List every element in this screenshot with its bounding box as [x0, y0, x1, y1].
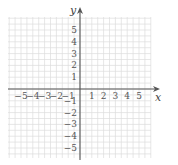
- x-tick-labels: −5−4−3−2−112345: [14, 91, 142, 101]
- x-tick-label: 1: [89, 91, 95, 101]
- y-tick-label: −4: [64, 131, 78, 141]
- x-tick-label: 3: [113, 91, 119, 101]
- y-tick-label: −2: [64, 108, 77, 118]
- y-tick-label: −5: [64, 143, 78, 153]
- y-axis-label: y: [69, 4, 77, 17]
- x-tick-label: 5: [136, 91, 142, 101]
- y-tick-label: 3: [71, 49, 77, 59]
- x-tick-label: 2: [101, 91, 107, 101]
- y-tick-label: 2: [71, 60, 77, 70]
- y-tick-label: −3: [64, 119, 78, 129]
- y-tick-label: 1: [71, 72, 77, 82]
- x-tick-label: 4: [124, 91, 130, 101]
- y-tick-label: 5: [71, 25, 77, 35]
- x-axis-label: x: [155, 91, 162, 104]
- y-tick-label: −1: [64, 96, 77, 106]
- coordinate-plane: x y −5−4−3−2−112345 54321−1−2−3−4−5: [0, 0, 178, 165]
- y-tick-label: 4: [71, 37, 77, 47]
